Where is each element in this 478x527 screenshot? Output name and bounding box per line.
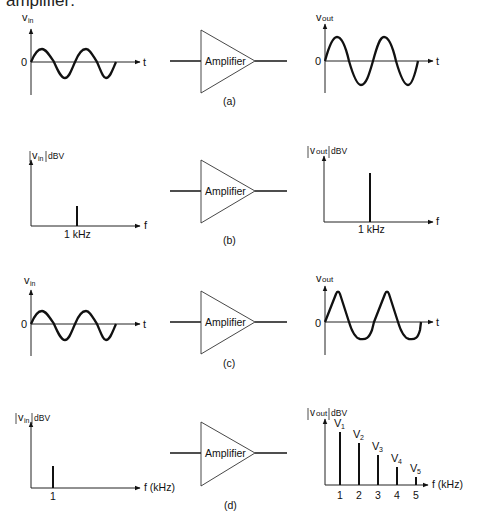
origin-label: 0 <box>21 56 27 68</box>
svg-text:out: out <box>316 147 328 156</box>
svg-text:v: v <box>310 145 315 156</box>
caption-d: (d) <box>224 499 237 511</box>
amplifier-label: Amplifier <box>205 55 246 67</box>
panel-d-output-spectrum: v out dBV f (kHz) V 1 V 2 V 3 V 4 V 5 1 … <box>308 407 463 501</box>
harmonic-bar-4 <box>396 467 398 485</box>
svg-text:v: v <box>310 407 315 418</box>
svg-text:Amplifier: Amplifier <box>205 316 246 328</box>
svg-text:0: 0 <box>21 318 27 330</box>
svg-text:3: 3 <box>379 446 383 453</box>
svg-text:1: 1 <box>341 423 345 430</box>
svg-text:f: f <box>436 215 440 227</box>
svg-text:f (kHz): f (kHz) <box>432 478 463 490</box>
svg-text:f: f <box>144 219 148 231</box>
svg-text:0: 0 <box>315 317 321 329</box>
panel-b-input-spectrum: v in dBV f 1 kHz <box>30 149 148 240</box>
svg-text:1: 1 <box>50 490 56 502</box>
svg-text:in: in <box>30 280 36 287</box>
panel-d-amplifier: Amplifier (d) <box>170 422 287 511</box>
caption-c: (c) <box>223 357 235 369</box>
svg-text:Amplifier: Amplifier <box>205 185 246 197</box>
svg-text:t: t <box>436 55 439 67</box>
svg-text:out: out <box>316 409 328 418</box>
x-axis-label: t <box>143 56 146 68</box>
svg-text:in: in <box>38 155 44 162</box>
spectral-line <box>369 173 371 222</box>
tick-label: 4 <box>394 489 400 501</box>
spectral-line <box>76 206 78 226</box>
panel-b-output-spectrum: v out dBV f 1 kHz <box>308 145 440 235</box>
harmonic-bar-2 <box>358 443 360 485</box>
caption-a: (a) <box>223 95 236 107</box>
harmonic-bar-3 <box>377 455 379 485</box>
svg-text:f (kHz): f (kHz) <box>144 481 175 493</box>
tick-label: 2 <box>356 489 362 501</box>
panel-a-output-graph: v out 0 t <box>315 11 439 93</box>
svg-text:in: in <box>28 17 34 24</box>
harmonic-bar-1 <box>339 432 341 485</box>
input-sine-wave <box>31 311 116 340</box>
svg-text:4: 4 <box>398 458 402 465</box>
svg-text:1 kHz: 1 kHz <box>358 223 385 235</box>
svg-text:Amplifier: Amplifier <box>205 447 246 459</box>
panel-a-amplifier: Amplifier (a) <box>170 30 287 107</box>
caption-b: (b) <box>223 234 236 246</box>
svg-text:dBV: dBV <box>48 151 64 161</box>
spectral-line <box>52 466 54 488</box>
svg-text:out: out <box>322 14 334 23</box>
svg-text:0: 0 <box>315 55 321 67</box>
tick-label: 5 <box>413 489 419 501</box>
svg-text:in: in <box>24 417 30 424</box>
panel-d-input-spectrum: v in dBV f (kHz) 1 <box>16 411 175 502</box>
svg-text:dBV: dBV <box>331 146 347 156</box>
panel-c-output-graph: v out 0 t <box>315 272 439 355</box>
output-distorted-wave <box>325 292 421 339</box>
tick-label: 1 <box>337 489 343 501</box>
svg-text:t: t <box>436 316 439 328</box>
panel-b-amplifier: Amplifier (b) <box>170 160 287 246</box>
svg-text:5: 5 <box>417 468 421 475</box>
panel-c-amplifier: Amplifier (c) <box>170 291 287 369</box>
panel-c-input-graph: v in 0 t <box>21 274 146 356</box>
svg-text:dBV: dBV <box>34 413 50 423</box>
input-sine-wave <box>31 49 116 78</box>
svg-text:1 kHz: 1 kHz <box>64 228 91 240</box>
harmonic-bar-5 <box>415 477 417 485</box>
panel-a-input-graph: v in 0 t <box>21 11 146 95</box>
tick-label: 3 <box>375 489 381 501</box>
svg-text:2: 2 <box>360 434 364 441</box>
svg-text:t: t <box>143 318 146 330</box>
svg-text:out: out <box>322 275 334 284</box>
